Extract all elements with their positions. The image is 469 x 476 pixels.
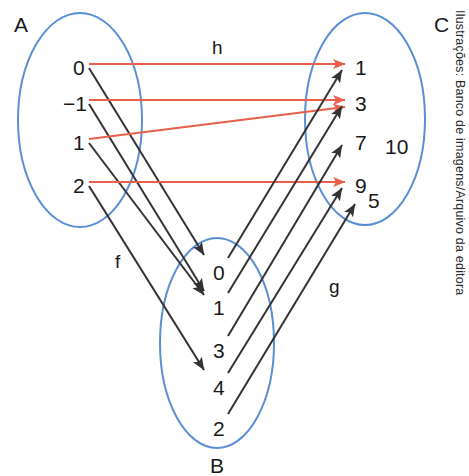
element-a-2: 1 [73, 132, 85, 153]
set-label-a: A [14, 14, 28, 35]
element-b-1: 1 [213, 297, 225, 318]
element-a-1: −1 [63, 93, 87, 114]
arrow-f-1-to-1 [89, 143, 204, 295]
element-c-2: 7 [355, 132, 367, 153]
arrow-h-1-to-3 [89, 107, 345, 139]
element-c-4: 10 [385, 136, 408, 157]
set-label-b: B [210, 455, 224, 476]
element-b-0: 0 [213, 262, 225, 283]
element-c-3: 9 [355, 175, 367, 196]
element-a-3: 2 [73, 175, 85, 196]
mapping-label-f: f [115, 252, 120, 271]
element-b-2: 3 [213, 340, 225, 361]
diagram-canvas: A B C f h g 0−112013421379105 Ilustraçõe… [0, 0, 469, 476]
arrow-f-2-to-4 [89, 186, 204, 370]
set-label-c: C [434, 14, 449, 35]
element-c-1: 3 [355, 93, 367, 114]
mapping-label-h: h [212, 38, 223, 57]
mapping-f-arrows [89, 68, 204, 370]
element-c-5: 5 [368, 190, 380, 211]
mapping-g-arrows [228, 70, 355, 414]
element-b-4: 2 [213, 418, 225, 439]
arrow-g-3-to-7 [228, 145, 342, 336]
arrow-f-0-to-0 [89, 68, 204, 255]
arrow-g-4-to-9 [228, 188, 342, 373]
element-b-3: 4 [213, 377, 225, 398]
arrow-g-0-to-1 [228, 70, 342, 258]
mapping-label-g: g [329, 277, 340, 296]
element-a-0: 0 [73, 57, 85, 78]
element-c-0: 1 [355, 57, 367, 78]
diagram-svg [0, 0, 469, 476]
credit-text: Ilustrações: Banco de imagens/Arquivo da… [453, 10, 467, 295]
arrow-g-2-to-5 [228, 204, 355, 414]
